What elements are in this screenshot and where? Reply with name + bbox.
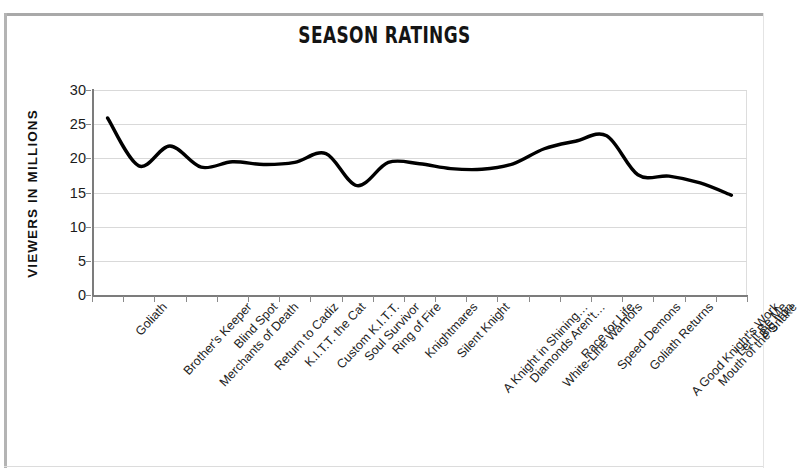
- y-axis-tick-mark: [86, 227, 91, 228]
- y-axis-tick-label: 20: [52, 150, 86, 166]
- y-axis-tick-label: 25: [52, 116, 86, 132]
- data-series-line: [92, 90, 747, 295]
- y-axis-tick-mark: [86, 124, 91, 125]
- y-axis-tick-mark: [86, 158, 91, 159]
- page-border-bottom: [4, 466, 764, 467]
- y-axis-tick-label: 15: [52, 185, 86, 201]
- y-axis-tick-mark: [86, 295, 91, 296]
- y-axis-tick-mark: [86, 90, 91, 91]
- y-axis-tick-label: 30: [52, 82, 86, 98]
- x-axis-category-label: Goliath: [132, 300, 169, 339]
- y-axis-tick-label: 5: [52, 253, 86, 269]
- chart-title: SEASON RATINGS: [69, 22, 700, 48]
- x-axis-category-labels: GoliathBrother's KeeperMerchants of Deat…: [0, 300, 769, 460]
- y-axis-tick-mark: [86, 261, 91, 262]
- y-axis-tick-label: 10: [52, 219, 86, 235]
- y-axis-title: VIEWERS IN MILLIONS: [25, 94, 40, 294]
- y-axis-tick-labels: 302520151050: [46, 90, 86, 295]
- page-border-top: [4, 13, 764, 16]
- y-axis-tick-mark: [86, 193, 91, 194]
